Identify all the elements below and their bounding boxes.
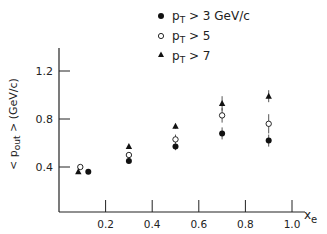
filled-circle-marker	[126, 158, 132, 164]
open-circle-marker	[219, 113, 224, 118]
legend-label-pt3: pT > 3 GeV/c	[172, 9, 250, 25]
triangle-marker	[126, 143, 132, 149]
x-axis-label: xe	[304, 208, 317, 225]
triangle-marker	[219, 100, 225, 106]
x-tick-label: 0.8	[237, 218, 254, 230]
open-circle-marker	[266, 121, 271, 126]
x-ticks: 0.20.40.60.81.0	[97, 200, 300, 230]
y-axis-label: < pout > (GeV/c)	[7, 78, 22, 170]
filled-circle-marker	[85, 169, 91, 175]
legend: pT > 3 GeV/c pT > 5 pT > 7	[158, 9, 250, 65]
filled-circle-marker	[266, 138, 272, 144]
open-circle-marker	[173, 137, 178, 142]
filled-circle-marker	[173, 144, 179, 150]
filled-circle-marker	[219, 130, 225, 136]
x-tick-label: 0.4	[144, 218, 161, 230]
triangle-marker	[266, 93, 272, 99]
legend-open-circle-icon	[158, 33, 163, 38]
x-tick-label: 1.0	[284, 218, 301, 230]
legend-label-pt5: pT > 5	[172, 29, 210, 45]
data-points	[75, 90, 272, 175]
triangle-marker	[172, 123, 178, 129]
legend-label-pt7: pT > 7	[172, 49, 210, 65]
open-circle-marker	[126, 152, 131, 157]
y-ticks: 0.40.81.2	[36, 65, 71, 174]
y-tick-label: 1.2	[36, 65, 54, 78]
y-tick-label: 0.4	[36, 161, 54, 174]
x-tick-label: 0.6	[190, 218, 207, 230]
y-tick-label: 0.8	[36, 113, 54, 126]
legend-filled-circle-icon	[158, 13, 164, 19]
x-tick-label: 0.2	[97, 218, 114, 230]
scatter-chart: 0.40.81.2 0.20.40.60.81.0 < pout > (GeV/…	[0, 0, 327, 234]
legend-triangle-icon	[158, 52, 164, 58]
